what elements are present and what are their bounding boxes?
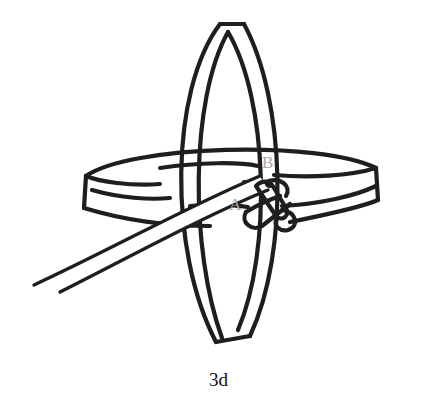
label-b: B: [262, 153, 273, 172]
working-cords: [34, 176, 268, 292]
figure-caption: 3d: [209, 369, 229, 390]
label-a: A: [229, 195, 242, 214]
knot-diagram: B A 3d: [0, 0, 423, 406]
